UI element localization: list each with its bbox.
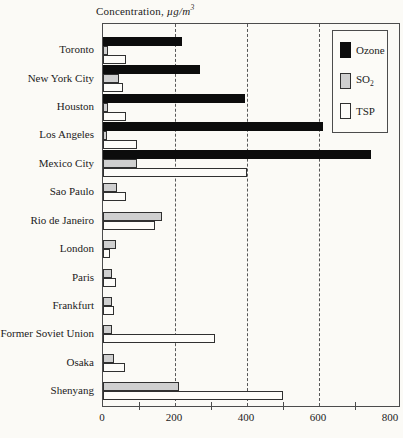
bar-tsp-sao-paulo [103,192,126,201]
x-tick-label-800: 800 [370,411,403,423]
bar-tsp-former-soviet-union [103,334,215,343]
bar-tsp-osaka [103,363,125,372]
bar-group-london [103,235,399,263]
air-pollution-bar-chart: Concentration, µg/m3 TorontoNew York Cit… [0,0,403,438]
legend-label-so2-subscript: 2 [370,79,374,88]
bar-so2-london [103,240,116,249]
chart-title-unit: µg/m [167,5,191,17]
bar-tsp-rio-de-janeiro [103,221,155,230]
bar-group-paris [103,263,399,291]
bar-tsp-frankfurt [103,306,114,315]
bar-so2-sao-paulo [103,183,117,192]
bar-so2-frankfurt [103,297,112,306]
bar-ozone-houston [103,94,245,103]
category-label-mexico-city: Mexico City [0,149,99,177]
bar-group-former-soviet-union [103,320,399,348]
bar-tsp-toronto [103,55,126,64]
x-tick-label-200: 200 [154,411,194,423]
bar-so2-paris [103,269,112,278]
bar-so2-toronto [103,46,108,55]
bar-so2-osaka [103,354,114,363]
legend-label-tsp: TSP [356,105,375,117]
bar-ozone-new-york-city [103,65,200,74]
category-label-paris: Paris [0,262,99,290]
bar-so2-new-york-city [103,74,119,83]
legend-swatch-ozone [340,42,351,58]
chart-title-text: Concentration, [96,5,167,17]
bar-so2-los-angeles [103,131,107,140]
bar-group-sao-paulo [103,178,399,206]
bar-so2-rio-de-janeiro [103,212,162,221]
legend-swatch-so2 [340,73,351,89]
category-label-sao-paulo: Sao Paulo [0,177,99,205]
bar-so2-mexico-city [103,159,137,168]
bar-ozone-mexico-city [103,150,371,159]
category-label-los-angeles: Los Angeles [0,120,99,148]
legend-item-tsp: TSP [340,103,385,119]
legend-label-ozone: Ozone [356,44,385,56]
x-tick-label-400: 400 [226,411,266,423]
category-label-houston: Houston [0,92,99,120]
bar-tsp-shenyang [103,391,283,400]
value-axis-tick-labels: 0200400600800 [102,411,400,427]
bar-ozone-toronto [103,37,182,46]
legend-swatch-tsp [340,103,351,119]
bar-so2-houston [103,103,108,112]
legend-item-so2: SO2 [340,73,385,89]
category-label-shenyang: Shenyang [0,376,99,404]
chart-title-unit-exponent: 3 [190,3,194,12]
category-label-london: London [0,234,99,262]
bar-so2-shenyang [103,382,179,391]
bar-group-shenyang [103,377,399,405]
chart-title: Concentration, µg/m3 [96,3,194,17]
bar-tsp-new-york-city [103,83,123,92]
x-tick-label-0: 0 [82,411,122,423]
bar-tsp-los-angeles [103,140,137,149]
category-label-osaka: Osaka [0,348,99,376]
bar-tsp-mexico-city [103,168,247,177]
bar-ozone-los-angeles [103,122,323,131]
category-label-former-soviet-union: Former Soviet Union [0,319,99,347]
bar-group-rio-de-janeiro [103,207,399,235]
bar-tsp-paris [103,278,116,287]
x-tick-label-600: 600 [298,411,338,423]
bar-group-mexico-city [103,150,399,178]
category-label-toronto: Toronto [0,35,99,63]
category-label-new-york-city: New York City [0,63,99,91]
category-label-frankfurt: Frankfurt [0,291,99,319]
category-axis-labels: TorontoNew York CityHoustonLos AngelesMe… [0,23,99,407]
category-label-rio-de-janeiro: Rio de Janeiro [0,206,99,234]
legend-item-ozone: Ozone [340,42,385,58]
bar-so2-former-soviet-union [103,325,112,334]
legend: OzoneSO2TSP [332,30,388,133]
bar-tsp-houston [103,112,126,121]
legend-label-so2: SO2 [356,73,374,88]
bar-group-osaka [103,349,399,377]
bar-group-frankfurt [103,292,399,320]
bar-tsp-london [103,249,110,258]
